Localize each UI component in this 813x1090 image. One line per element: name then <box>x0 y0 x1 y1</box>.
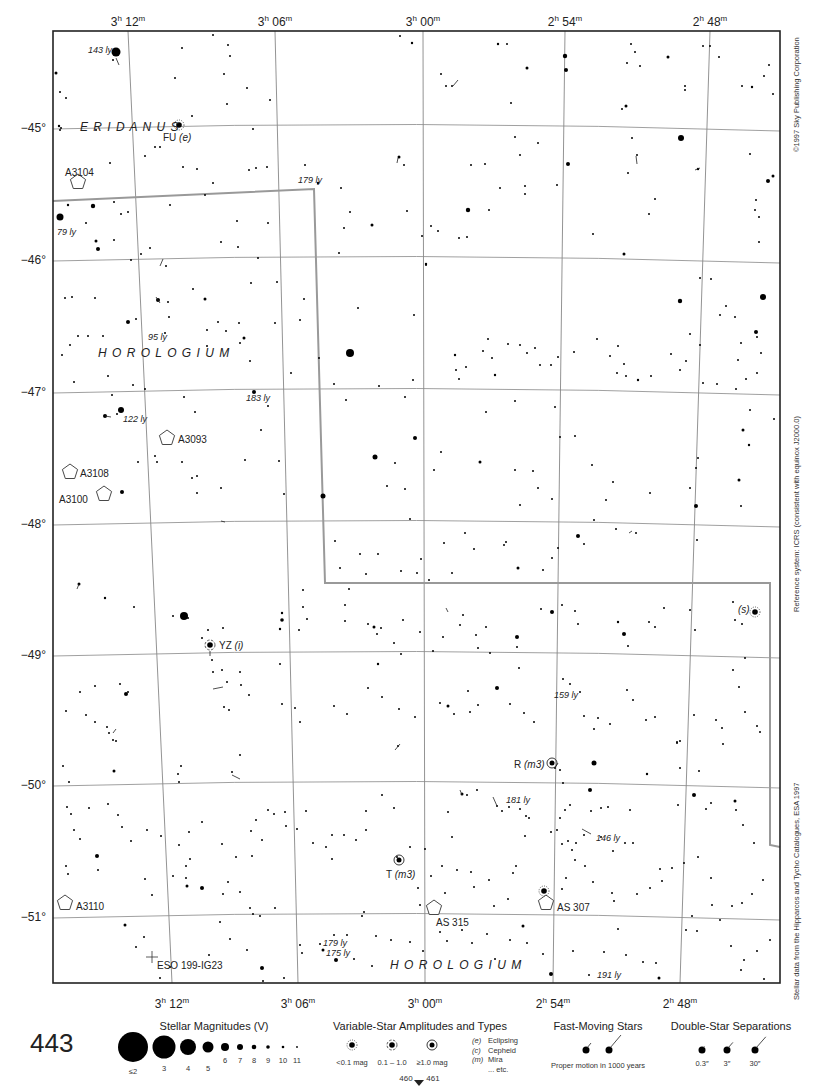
object-label: ESO 199-IG23 <box>157 960 223 971</box>
star <box>339 567 341 569</box>
magnitude-dot-icon <box>237 1044 243 1050</box>
star <box>393 807 395 809</box>
star <box>623 363 625 365</box>
star <box>55 72 58 75</box>
star <box>404 396 406 398</box>
star <box>144 388 146 390</box>
magnitude-label: 11 <box>293 1056 301 1065</box>
star <box>321 494 326 499</box>
star <box>212 182 214 184</box>
star <box>482 350 484 352</box>
ra-tick-label: 3h 06m <box>258 14 293 29</box>
adjacent-page-left: 460 <box>399 1074 412 1083</box>
star <box>471 942 473 944</box>
star <box>252 128 254 130</box>
star <box>550 364 552 366</box>
star <box>165 265 167 267</box>
magnitude-dot-icon <box>282 1046 285 1049</box>
star <box>676 741 678 743</box>
star <box>361 915 363 917</box>
star <box>559 769 561 771</box>
star <box>658 977 661 980</box>
star <box>191 115 193 117</box>
star <box>393 642 395 644</box>
other-objects: ESO 199-IG23 <box>146 951 223 971</box>
star <box>740 505 742 507</box>
star <box>731 905 733 907</box>
star <box>506 43 508 45</box>
star <box>400 653 402 655</box>
star <box>312 842 314 844</box>
star <box>519 154 521 156</box>
dec-tick-label: −50° <box>0 778 46 792</box>
star <box>562 678 564 680</box>
star <box>574 435 576 437</box>
constellation-name: H O R O L O G I U M <box>390 958 522 972</box>
star <box>540 608 542 610</box>
star <box>204 298 207 301</box>
star <box>769 939 771 941</box>
star <box>464 532 466 534</box>
star <box>194 411 196 413</box>
star <box>756 725 758 727</box>
star <box>524 835 526 837</box>
star <box>65 865 67 867</box>
star <box>709 45 711 47</box>
star <box>346 713 348 715</box>
proper-motion-arrow-icon <box>446 608 448 612</box>
star <box>655 962 657 964</box>
star <box>236 220 238 222</box>
star <box>239 671 241 673</box>
separation-tick-icon <box>756 1037 766 1048</box>
star-atlas-chart: A3104A3093A3108A3100A3110AS 315AS 307 FU… <box>0 0 813 1090</box>
star <box>65 97 67 99</box>
star <box>144 878 146 880</box>
star <box>718 56 720 58</box>
star <box>425 264 427 266</box>
star <box>612 481 614 483</box>
star <box>616 372 618 374</box>
star <box>159 977 161 979</box>
star <box>267 809 269 811</box>
star <box>754 209 756 211</box>
star <box>318 357 320 359</box>
star <box>751 86 753 88</box>
star <box>696 930 698 932</box>
star <box>373 455 378 460</box>
star <box>756 950 758 952</box>
star <box>763 75 765 77</box>
star <box>495 686 499 690</box>
star <box>503 544 505 546</box>
star <box>70 813 72 815</box>
star <box>693 714 695 716</box>
dec-gridline <box>53 913 780 920</box>
star <box>737 359 739 361</box>
star <box>367 623 369 625</box>
star <box>345 399 347 401</box>
double-star-dot-icon <box>699 1047 706 1054</box>
star <box>447 811 449 813</box>
star <box>441 865 443 867</box>
star <box>344 620 346 622</box>
star <box>279 663 281 665</box>
star <box>140 253 142 255</box>
star <box>422 950 424 952</box>
star <box>557 547 559 549</box>
magnitude-dot-icon <box>221 1043 229 1051</box>
variable-star-label: (s) <box>738 604 750 615</box>
star <box>561 604 563 606</box>
proper-motion-arrow-icon <box>587 1043 591 1048</box>
variable-star <box>397 858 402 863</box>
variable-star-label: YZ (i) <box>219 640 243 651</box>
star <box>475 634 477 636</box>
star <box>437 230 439 232</box>
star <box>592 881 594 883</box>
double-star-dot-icon <box>724 1047 731 1054</box>
star <box>454 354 456 356</box>
proper-motion-arrow-icon <box>116 58 119 65</box>
star <box>375 935 377 937</box>
star <box>180 765 182 767</box>
star <box>355 839 357 841</box>
star <box>583 834 585 836</box>
star <box>637 379 639 381</box>
